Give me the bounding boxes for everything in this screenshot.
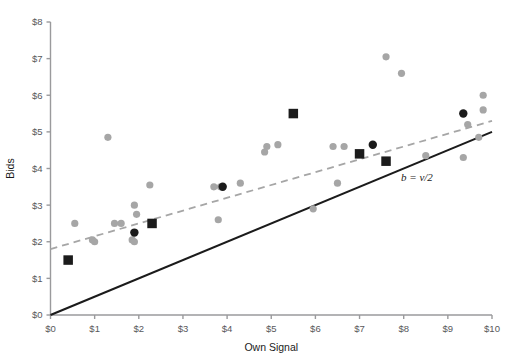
data-point-circle <box>91 238 98 245</box>
data-point-circle <box>334 180 341 187</box>
data-point-circle <box>340 143 347 150</box>
x-axis-tick-label: $3 <box>178 323 189 334</box>
data-point-dark-circle <box>369 140 377 148</box>
x-axis-tick-label: $4 <box>222 323 233 334</box>
x-axis-tick-label: $7 <box>354 323 365 334</box>
data-point-circle <box>475 134 482 141</box>
data-point-dark-circle <box>459 109 467 117</box>
data-point-circle <box>460 154 467 161</box>
y-axis-tick-label: $2 <box>32 236 43 247</box>
data-point-circle <box>480 92 487 99</box>
data-point-dark-circle <box>130 228 138 236</box>
data-point-circle <box>480 106 487 113</box>
y-axis-title: Bids <box>4 158 16 178</box>
data-point-square <box>289 109 299 119</box>
x-axis-title: Own Signal <box>244 341 298 353</box>
data-point-circle <box>274 141 281 148</box>
trend-lines <box>51 121 493 315</box>
data-point-circle <box>131 238 138 245</box>
x-axis-tick-label: $8 <box>398 323 409 334</box>
data-point-circle <box>146 181 153 188</box>
data-points <box>63 53 486 265</box>
x-axis-tick-label: $0 <box>45 323 56 334</box>
data-point-square <box>355 149 365 159</box>
data-point-circle <box>118 220 125 227</box>
data-point-circle <box>382 53 389 60</box>
regression-trend <box>51 121 493 249</box>
data-point-square <box>63 255 73 265</box>
data-point-circle <box>133 211 140 218</box>
data-point-circle <box>237 180 244 187</box>
data-point-circle <box>263 143 270 150</box>
data-point-circle <box>215 216 222 223</box>
b-equals-v-over-2: b = v/2 <box>401 171 433 183</box>
data-point-square <box>147 219 157 229</box>
y-axis-tick-label: $6 <box>32 90 43 101</box>
scatter-plot-figure: $0$1$2$3$4$5$6$7$8$0$1$2$3$4$5$6$7$8$9$1… <box>0 0 509 364</box>
data-point-circle <box>398 70 405 77</box>
y-axis-tick-label: $4 <box>32 163 43 174</box>
y-axis-tick-label: $7 <box>32 53 43 64</box>
x-axis-tick-label: $9 <box>443 323 454 334</box>
data-point-circle <box>422 152 429 159</box>
y-axis-tick-label: $8 <box>32 16 43 27</box>
y-axis-tick-label: $1 <box>32 273 43 284</box>
x-axis-tick-label: $1 <box>89 323 100 334</box>
data-point-circle <box>104 134 111 141</box>
data-point-circle <box>210 183 217 190</box>
data-point-circle <box>111 220 118 227</box>
y-axis-tick-label: $0 <box>32 309 43 320</box>
data-point-circle <box>71 220 78 227</box>
y-axis-tick-label: $3 <box>32 200 43 211</box>
y-axis-tick-label: $5 <box>32 126 43 137</box>
data-point-square <box>381 156 391 166</box>
data-point-dark-circle <box>218 183 226 191</box>
data-point-circle <box>131 202 138 209</box>
chart-canvas: $0$1$2$3$4$5$6$7$8$0$1$2$3$4$5$6$7$8$9$1… <box>0 0 509 364</box>
x-axis-tick-label: $2 <box>134 323 145 334</box>
x-axis-tick-label: $5 <box>266 323 277 334</box>
data-point-circle <box>329 143 336 150</box>
x-axis-tick-label: $6 <box>310 323 321 334</box>
data-point-circle <box>464 121 471 128</box>
x-axis-tick-label: $10 <box>484 323 500 334</box>
data-point-circle <box>310 205 317 212</box>
